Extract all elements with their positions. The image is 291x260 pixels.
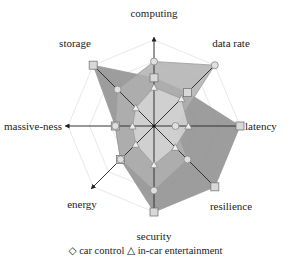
circle-marker (172, 123, 179, 130)
radar-chart: computingdata ratelatencyresiliencesecur… (0, 0, 291, 260)
axis-label-energy: energy (67, 198, 97, 210)
circle-marker (151, 58, 158, 65)
circle-marker (114, 86, 121, 93)
square-marker (183, 89, 191, 97)
circle-marker (151, 187, 158, 194)
legend-in-car-entertainment: in-car entertainment (138, 245, 223, 256)
circle-marker (211, 62, 218, 69)
axis-label-latency: latency (245, 120, 277, 132)
axis-label-security: security (137, 230, 172, 242)
circle-marker (112, 123, 119, 130)
square-marker (150, 208, 158, 216)
center-point (152, 124, 155, 127)
axis-label-resilience: resilience (210, 200, 252, 212)
square-marker (211, 183, 219, 191)
circle-marker (184, 156, 191, 163)
axis-label-storage: storage (59, 37, 91, 49)
square-marker (150, 74, 158, 82)
square-marker (89, 61, 97, 69)
triangle-icon: △ (127, 245, 135, 256)
axis-label-massive-ness: massive-ness (4, 120, 62, 132)
axis-label-data-rate: data rate (212, 37, 250, 49)
circle-marker (117, 156, 124, 163)
diamond-icon: ◇ (68, 245, 76, 256)
square-marker (236, 122, 244, 130)
axis-label-computing: computing (130, 7, 178, 19)
chart-legend: ◇ car control △ in-car entertainment (0, 244, 291, 256)
legend-car-control: car control (79, 245, 124, 256)
